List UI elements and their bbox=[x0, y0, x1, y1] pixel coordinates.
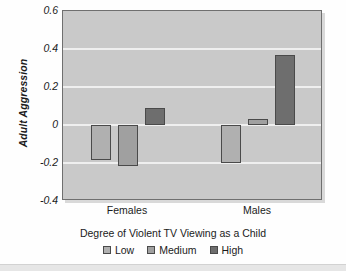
gridline bbox=[63, 162, 321, 164]
legend-item-medium: Medium bbox=[147, 244, 196, 256]
bottom-strip bbox=[0, 264, 346, 271]
chart-legend: LowMediumHigh bbox=[0, 244, 346, 256]
bar-females-medium bbox=[118, 125, 138, 166]
legend-label: Low bbox=[115, 244, 134, 256]
bar-males-high bbox=[275, 55, 295, 125]
legend-swatch-low-icon bbox=[103, 246, 111, 254]
bar-chart-figure: Adult Aggression 0.60.40.20-0.2-0.4 Fema… bbox=[0, 0, 346, 271]
y-axis-tick-label: -0.2 bbox=[24, 156, 58, 168]
legend-swatch-medium-icon bbox=[147, 246, 155, 254]
bar-males-medium bbox=[248, 119, 268, 125]
legend-item-high: High bbox=[210, 244, 244, 256]
y-axis-tick-label: 0.4 bbox=[24, 42, 58, 54]
x-axis-label-males: Males bbox=[243, 204, 271, 216]
legend-label: High bbox=[222, 244, 244, 256]
x-axis-title: Degree of Violent TV Viewing as a Child bbox=[0, 227, 346, 239]
bar-females-low bbox=[91, 125, 111, 160]
y-axis-tick-label: 0.2 bbox=[24, 80, 58, 92]
y-axis-tick-label: 0 bbox=[24, 118, 58, 130]
x-axis-category-labels: FemalesMales bbox=[62, 204, 322, 220]
bar-females-high bbox=[145, 108, 165, 125]
legend-item-low: Low bbox=[103, 244, 134, 256]
y-axis-tick-label: -0.4 bbox=[24, 194, 58, 206]
legend-label: Medium bbox=[159, 244, 196, 256]
y-axis-tick-labels: 0.60.40.20-0.2-0.4 bbox=[24, 10, 58, 200]
bar-males-low bbox=[221, 125, 241, 163]
plot-area bbox=[62, 10, 322, 200]
x-axis-label-females: Females bbox=[107, 204, 147, 216]
legend-swatch-high-icon bbox=[210, 246, 218, 254]
y-axis-tick-label: 0.6 bbox=[24, 4, 58, 16]
gridline bbox=[63, 48, 321, 50]
